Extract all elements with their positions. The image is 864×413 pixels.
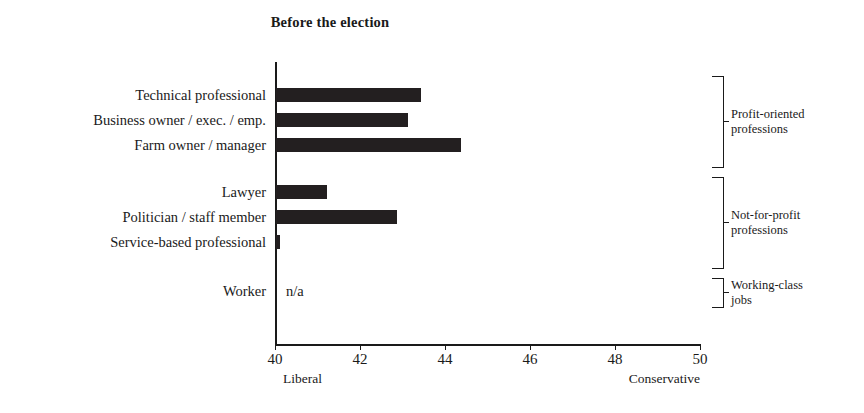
value-axis-line (275, 344, 701, 346)
axis-anchor-conservative: Conservative (560, 371, 700, 387)
bar-technical-professional (276, 88, 421, 102)
group-bracket-label-working-class: Working-class jobs (731, 278, 859, 308)
category-label: Farm owner / manager (0, 135, 266, 155)
na-label: n/a (286, 281, 304, 301)
x-tick-label-46: 46 (500, 351, 560, 368)
x-tick-mark-50 (700, 344, 701, 350)
bar-farm-owner (276, 138, 461, 152)
x-tick-mark-40 (275, 344, 276, 350)
x-tick-mark-48 (615, 344, 616, 350)
bar-chart: 40 42 44 46 48 50 Technical professional… (0, 0, 864, 413)
group-bracket-label-not-for-profit: Not-for-profit professions (731, 208, 859, 238)
bracket-label-line1: Profit-oriented (731, 107, 859, 122)
x-tick-mark-42 (360, 344, 361, 350)
category-label: Worker (0, 281, 266, 301)
x-tick-mark-44 (445, 344, 446, 350)
bar-lawyer (276, 185, 327, 199)
category-label: Politician / staff member (0, 207, 266, 227)
x-tick-label-42: 42 (330, 351, 390, 368)
x-tick-label-48: 48 (585, 351, 645, 368)
category-axis-line (275, 62, 277, 345)
bracket-label-line2: professions (731, 223, 859, 238)
x-tick-label-44: 44 (415, 351, 475, 368)
x-tick-label-50: 50 (670, 351, 730, 368)
bracket-label-line2: professions (731, 122, 859, 137)
bar-business-owner (276, 113, 408, 127)
bar-politician (276, 210, 397, 224)
category-label: Lawyer (0, 182, 266, 202)
axis-anchor-liberal: Liberal (283, 371, 322, 387)
group-bracket-tick (723, 292, 729, 293)
x-tick-mark-46 (530, 344, 531, 350)
category-label: Service-based professional (0, 232, 266, 252)
bracket-label-line1: Working-class (731, 278, 859, 293)
bar-service-based-professional (276, 235, 280, 249)
bracket-label-line1: Not-for-profit (731, 208, 859, 223)
category-label: Business owner / exec. / emp. (0, 110, 266, 130)
group-bracket-tick (723, 222, 729, 223)
category-label: Technical professional (0, 85, 266, 105)
x-tick-label-40: 40 (245, 351, 305, 368)
group-bracket-tick (723, 121, 729, 122)
bracket-label-line2: jobs (731, 293, 859, 308)
group-bracket-label-profit-oriented: Profit-oriented professions (731, 107, 859, 137)
